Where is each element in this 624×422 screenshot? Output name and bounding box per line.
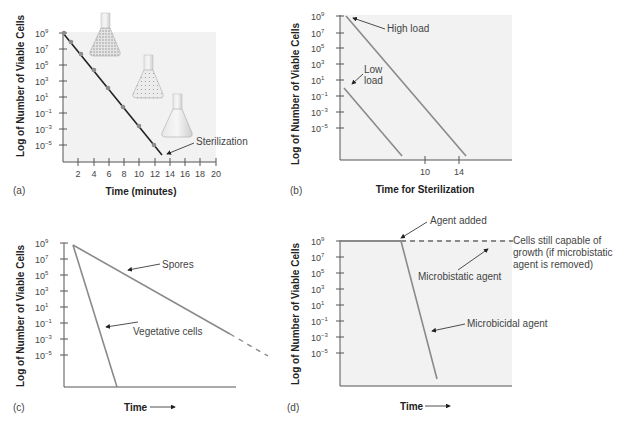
x-tick-10: 10: [420, 167, 430, 177]
svg-text:109: 109: [35, 28, 49, 39]
svg-text:2: 2: [75, 169, 80, 179]
svg-text:growth (if microbistatic: growth (if microbistatic: [513, 247, 612, 258]
svg-text:10−1: 10−1: [311, 91, 329, 102]
high-load-label: High load: [387, 23, 429, 34]
sterilization-label: Sterilization: [196, 136, 248, 147]
agent-added-arrow: [401, 222, 427, 238]
svg-text:10−3: 10−3: [311, 332, 329, 343]
y-ticks-d: 109 107 105 103 101 10−1 10−3 10−5: [311, 236, 329, 359]
x-axis-label-a: Time (minutes): [106, 186, 177, 197]
svg-text:14: 14: [165, 169, 175, 179]
still-capable-label: Cells still capable of: [513, 235, 602, 246]
plot-area-b: [340, 15, 512, 160]
svg-text:105: 105: [311, 268, 325, 279]
svg-text:105: 105: [35, 60, 49, 71]
y-ticks-c: 109 107 105 103 101 10−1 10−3 10−5: [35, 238, 53, 361]
low-load-label: Low: [364, 64, 383, 75]
panel-label-d: (d): [287, 402, 299, 413]
svg-text:agent is removed): agent is removed): [513, 259, 593, 270]
svg-text:101: 101: [311, 75, 325, 86]
panel-c: 109 107 105 103 101 10−1 10−3 10−5 Spore…: [13, 238, 268, 413]
svg-text:109: 109: [311, 236, 325, 247]
svg-text:10−5: 10−5: [35, 140, 53, 151]
svg-text:18: 18: [195, 169, 205, 179]
plot-area-d: [340, 240, 512, 386]
svg-text:10: 10: [134, 169, 144, 179]
svg-text:103: 103: [311, 284, 325, 295]
svg-text:109: 109: [35, 238, 49, 249]
svg-text:8: 8: [121, 169, 126, 179]
microbicidal-label: Microbicidal agent: [467, 318, 548, 329]
svg-text:107: 107: [311, 28, 325, 39]
svg-text:10−3: 10−3: [311, 107, 329, 118]
svg-text:10−3: 10−3: [35, 124, 53, 135]
figure: 109 107 105 103 101 10−1 10−3 10−5 2 4 6…: [0, 0, 624, 422]
svg-text:107: 107: [35, 44, 49, 55]
spores-label: Spores: [162, 259, 194, 270]
svg-text:107: 107: [311, 252, 325, 263]
svg-text:105: 105: [311, 43, 325, 54]
svg-text:107: 107: [35, 254, 49, 265]
spores-arrow: [128, 264, 160, 270]
x-axis-label-d: Time: [400, 401, 424, 412]
svg-text:10−5: 10−5: [311, 348, 329, 359]
svg-text:10−1: 10−1: [35, 318, 53, 329]
svg-text:16: 16: [180, 169, 190, 179]
svg-text:10−1: 10−1: [311, 316, 329, 327]
y-ticks-b: 109 107 105 103 101 10−1 10−3 10−5: [311, 11, 329, 134]
panel-a: 109 107 105 103 101 10−1 10−3 10−5 2 4 6…: [13, 13, 248, 197]
x-ticks-a: 2 4 6 8 10 12 14 16 18 20: [75, 169, 221, 179]
y-axis-label-a: Log of Number of Viable Cells: [15, 15, 26, 157]
svg-text:20: 20: [211, 169, 221, 179]
svg-text:103: 103: [35, 76, 49, 87]
svg-text:101: 101: [35, 92, 49, 103]
x-tick-14: 14: [454, 167, 464, 177]
svg-text:103: 103: [311, 59, 325, 70]
microbistatic-label: Microbistatic agent: [418, 271, 502, 282]
y-axis-label-b: Log of Number of Viable Cells: [290, 23, 301, 165]
agent-added-label: Agent added: [430, 215, 487, 226]
svg-text:105: 105: [35, 270, 49, 281]
svg-text:4: 4: [91, 169, 96, 179]
panel-label-c: (c): [13, 402, 25, 413]
svg-text:10−5: 10−5: [35, 350, 53, 361]
panel-label-b: (b): [290, 185, 302, 196]
svg-text:10−1: 10−1: [35, 108, 53, 119]
panel-d: 109 107 105 103 101 10−1 10−3 10−5 Agent…: [287, 215, 612, 413]
svg-text:109: 109: [311, 11, 325, 22]
vegetative-label: Vegetative cells: [133, 326, 203, 337]
svg-text:12: 12: [150, 169, 160, 179]
svg-text:103: 103: [35, 286, 49, 297]
svg-text:load: load: [364, 75, 383, 86]
panel-b: 109 107 105 103 101 10−1 10−3 10−5 10 14…: [290, 11, 512, 196]
svg-text:10−3: 10−3: [35, 334, 53, 345]
y-axis-label-c: Log of Number of Viable Cells: [15, 245, 26, 387]
panel-label-a: (a): [13, 185, 25, 196]
spores-extrapolation: [230, 334, 268, 356]
y-ticks-a: 109 107 105 103 101 10−1 10−3 10−5: [35, 28, 53, 151]
y-axis-label-d: Log of Number of Viable Cells: [290, 243, 301, 385]
svg-text:6: 6: [106, 169, 111, 179]
x-axis-label-c: Time: [124, 402, 148, 413]
svg-text:10−5: 10−5: [311, 123, 329, 134]
svg-text:101: 101: [311, 300, 325, 311]
x-axis-label-b: Time for Sterilization: [376, 184, 475, 195]
svg-text:101: 101: [35, 302, 49, 313]
